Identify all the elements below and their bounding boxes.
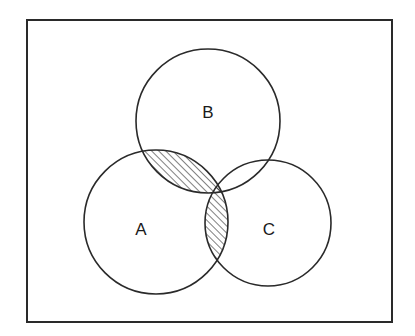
shaded-region-a-intersect-b-union-c (136, 49, 331, 286)
set-c-label: C (263, 220, 275, 239)
set-a-label: A (135, 220, 147, 239)
venn-diagram: B A C (0, 0, 415, 336)
universe-rectangle (27, 20, 392, 322)
set-b-label: B (202, 103, 213, 122)
